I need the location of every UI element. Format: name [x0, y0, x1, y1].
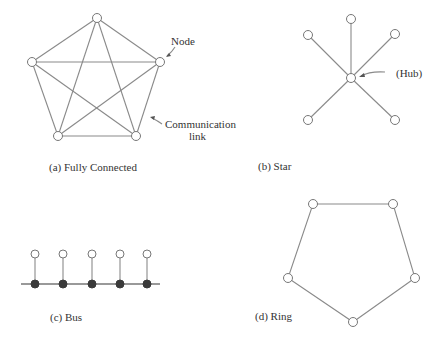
caption-bus: (c) Bus	[50, 311, 82, 323]
node	[54, 132, 63, 141]
ring-graph	[284, 200, 420, 327]
caption-ring: (d) Ring	[255, 310, 292, 322]
star-graph	[304, 15, 400, 125]
node-annotation: Node	[171, 35, 195, 47]
caption-fully-connected: (a) Fully Connected	[49, 161, 137, 173]
fully-connected-graph	[28, 14, 176, 141]
caption-star: (b) Star	[258, 160, 291, 172]
hub-annotation: (Hub)	[396, 67, 422, 79]
node	[93, 14, 102, 23]
topology-diagram	[0, 0, 447, 347]
hub-node	[347, 74, 356, 83]
node	[156, 58, 165, 67]
node	[132, 132, 141, 141]
node	[28, 58, 37, 67]
hub-arrow-icon	[361, 72, 385, 76]
link-annotation-line1: Communication	[165, 118, 236, 130]
bus-graph	[21, 250, 160, 288]
link-annotation-line2: link	[189, 130, 206, 142]
